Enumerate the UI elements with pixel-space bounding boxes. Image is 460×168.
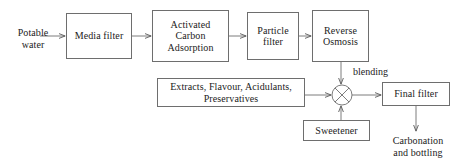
node-sweetener[interactable]: Sweetener bbox=[303, 120, 370, 141]
label-potable-water-line1: Potable bbox=[6, 27, 60, 39]
node-sweetener-label: Sweetener bbox=[315, 125, 358, 137]
label-potable-water-line2: water bbox=[6, 39, 60, 51]
node-activated-carbon-adsorption[interactable]: Activated Carbon Adsorption bbox=[152, 10, 229, 62]
node-activated-carbon-line3: Adsorption bbox=[168, 42, 214, 54]
node-media-filter-label: Media filter bbox=[75, 30, 124, 42]
label-carbonation-line1: Carbonation bbox=[382, 135, 454, 147]
node-media-filter[interactable]: Media filter bbox=[66, 13, 132, 59]
node-extracts-line2: Preservatives bbox=[170, 93, 292, 105]
label-carbonation-line2: and bottling bbox=[382, 147, 454, 159]
node-final-filter-label: Final filter bbox=[394, 88, 438, 100]
mixer-node bbox=[332, 85, 352, 105]
node-particle-filter[interactable]: Particle filter bbox=[247, 12, 299, 60]
node-extracts-line1: Extracts, Flavour, Acidulants, bbox=[170, 81, 292, 93]
label-potable-water: Potable water bbox=[6, 27, 60, 50]
node-reverse-osmosis-line2: Osmosis bbox=[323, 36, 358, 48]
edge-label-blending: blending bbox=[352, 66, 389, 77]
label-carbonation-and-bottling: Carbonation and bottling bbox=[382, 135, 454, 158]
process-flow-diagram: Potable water Media filter Activated Car… bbox=[0, 0, 460, 168]
node-activated-carbon-line2: Carbon bbox=[168, 30, 214, 42]
node-final-filter[interactable]: Final filter bbox=[382, 82, 450, 106]
node-reverse-osmosis[interactable]: Reverse Osmosis bbox=[312, 10, 369, 62]
node-particle-filter-line1: Particle bbox=[257, 25, 288, 37]
node-activated-carbon-line1: Activated bbox=[168, 19, 214, 31]
node-reverse-osmosis-line1: Reverse bbox=[323, 25, 358, 37]
node-extracts-flavour-acidulants-preservatives[interactable]: Extracts, Flavour, Acidulants, Preservat… bbox=[157, 78, 305, 107]
node-particle-filter-line2: filter bbox=[257, 36, 288, 48]
